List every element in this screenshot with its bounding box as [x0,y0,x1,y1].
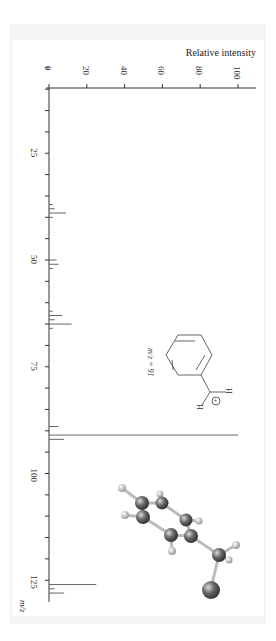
intensity-axis-title: Relative intensity [186,47,256,58]
mz-tick-label: 125 [29,575,39,589]
hydrogen-label: H [195,404,204,410]
mz-tick-label: 25 [29,148,39,158]
mz-tick-label: 75 [29,362,39,372]
intensity-tick-label: 0 [43,66,53,71]
ion-label: m/z = 91 [146,348,155,377]
mz-axis-title: m/z [18,600,28,613]
mz-tick-label: 100 [29,469,39,483]
intensity-tick-label: 100 [232,66,242,80]
plus-sign: + [213,399,219,403]
intensity-tick-label: 40 [119,66,129,76]
intensity-tick-label: 80 [194,66,204,76]
intensity-tick-label: 60 [156,66,166,76]
mass-spectrum-chart: Relative intensity 020406080100 25507510… [0,0,276,641]
hydrogen-label: H [224,388,233,394]
intensity-tick-label: 20 [81,66,91,76]
chlorine-atom [202,581,220,599]
mz-tick-label: 50 [29,255,39,265]
